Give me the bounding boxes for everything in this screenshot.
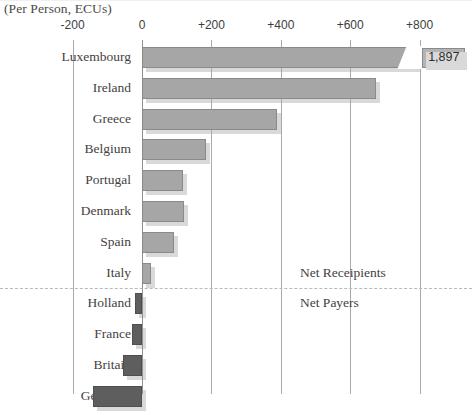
bar-greece — [142, 109, 277, 130]
bar-belgium — [142, 139, 206, 160]
bar-body — [142, 47, 416, 68]
category-label-ireland: Ireland — [93, 80, 131, 96]
bar-body — [123, 355, 142, 376]
x-axis-tick-label: +600 — [337, 18, 364, 32]
bar-body — [142, 201, 184, 222]
annotation-net-payers: Net Payers — [300, 295, 359, 311]
category-label-luxembourg: Luxembourg — [62, 49, 132, 65]
bar-denmark — [142, 201, 184, 222]
category-label-belgium: Belgium — [85, 141, 132, 157]
x-axis-tick-label: +400 — [267, 18, 294, 32]
group-divider — [0, 288, 472, 289]
bar-body — [142, 139, 206, 160]
bar-body — [93, 386, 142, 407]
bar-body — [142, 109, 277, 130]
plot-area: -2000+200+400+600+800Luxembourg1,897Irel… — [0, 28, 472, 395]
bar-italy — [142, 263, 151, 284]
bar-body — [142, 78, 376, 99]
bar-germany — [93, 386, 142, 407]
gridline-800 — [420, 40, 421, 394]
bar-britain — [123, 355, 142, 376]
chart-container: (Per Person, ECUs) -2000+200+400+600+800… — [0, 0, 472, 415]
bar-body — [142, 232, 174, 253]
bar-body — [132, 324, 142, 345]
chart-subtitle: (Per Person, ECUs) — [4, 1, 112, 17]
x-axis-tick-label: -200 — [61, 18, 85, 32]
category-label-spain: Spain — [100, 234, 131, 250]
callout-shadow — [426, 52, 467, 70]
category-label-italy: Italy — [106, 265, 131, 281]
bar-spain — [142, 232, 174, 253]
x-axis-tick-label: +200 — [198, 18, 225, 32]
bar-holland — [135, 293, 142, 314]
category-label-holland: Holland — [88, 295, 132, 311]
bar-ireland — [142, 78, 376, 99]
x-axis-tick-label: 0 — [139, 18, 146, 32]
x-axis-tick-label: +800 — [406, 18, 433, 32]
bar-luxembourg — [142, 47, 416, 68]
bar-body — [135, 293, 142, 314]
value-callout-luxembourg: 1,897 — [422, 48, 465, 68]
category-label-portugal: Portugal — [85, 172, 131, 188]
bar-france — [132, 324, 142, 345]
category-label-greece: Greece — [93, 111, 131, 127]
bar-body — [142, 263, 151, 284]
annotation-net-recipients: Net Receipients — [300, 265, 386, 281]
bar-body — [142, 170, 183, 191]
category-label-france: France — [94, 326, 131, 342]
category-label-denmark: Denmark — [81, 203, 131, 219]
bar-portugal — [142, 170, 183, 191]
gridline--200 — [73, 40, 74, 394]
